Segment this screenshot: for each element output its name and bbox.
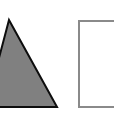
shapes-svg xyxy=(0,0,114,116)
figure-canvas xyxy=(0,0,114,116)
rectangle-shape xyxy=(79,21,114,107)
